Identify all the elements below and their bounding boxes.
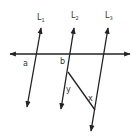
- line-l1: [27, 28, 41, 107]
- diagram-canvas: L1 L2 L3 a b y x: [0, 0, 137, 139]
- label-l1: L1: [37, 13, 45, 23]
- angle-a-label: a: [23, 59, 28, 68]
- label-l3: L3: [105, 11, 113, 21]
- line-l3: [91, 28, 108, 131]
- angle-b-label: b: [60, 57, 65, 66]
- angle-x-label: x: [88, 94, 93, 103]
- parallel-lines-diagram: L1 L2 L3 a b y x: [0, 0, 137, 139]
- line-l2: [61, 28, 74, 109]
- diagonal-segment: [68, 72, 95, 110]
- angle-y-label: y: [66, 85, 71, 94]
- label-l2: L2: [71, 11, 79, 21]
